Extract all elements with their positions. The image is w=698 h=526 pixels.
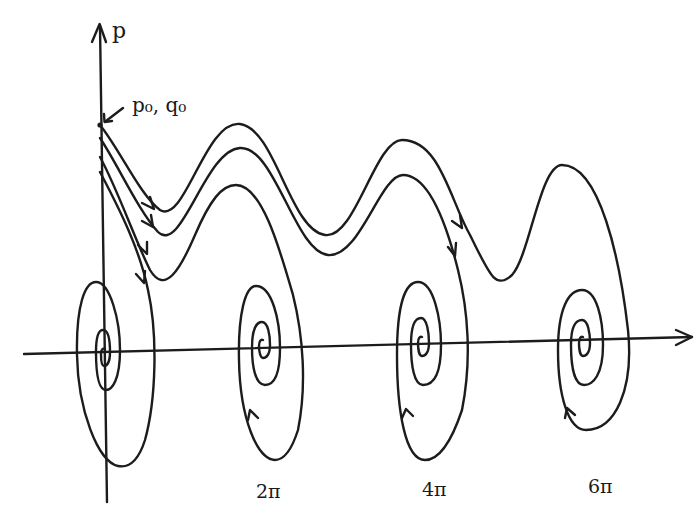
tick-label-6pi: 6π xyxy=(588,477,613,496)
flow-arrow-icon xyxy=(402,409,413,418)
tick-label-4pi: 4π xyxy=(422,480,447,499)
tick-label-2pi: 2π xyxy=(256,482,281,501)
p-axis xyxy=(100,26,107,502)
flow-arrow-icon xyxy=(248,410,258,420)
flow-arrow-icon xyxy=(452,215,462,228)
p-axis-label: p xyxy=(112,20,126,42)
trajectory-to-0 xyxy=(77,172,155,466)
trajectory-to-6pi xyxy=(100,124,629,430)
initial-point-label: p₀, q₀ xyxy=(132,95,186,115)
trajectory-to-4pi xyxy=(100,138,468,460)
flow-arrow-icon xyxy=(136,271,145,283)
phase-portrait xyxy=(0,0,698,526)
trajectory-to-2pi xyxy=(100,157,303,460)
initial-point-pointer-icon xyxy=(106,108,123,121)
q-axis xyxy=(24,337,692,354)
